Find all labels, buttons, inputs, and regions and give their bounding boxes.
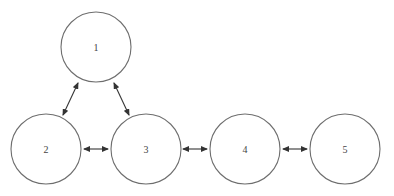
network-diagram: 1 2 3 4 5 [0, 0, 394, 196]
node-4: 4 [210, 114, 280, 184]
node-3-label: 3 [144, 144, 149, 155]
node-2-label: 2 [44, 144, 49, 155]
edge-1-3-bidirectional-arrow [114, 83, 129, 115]
node-3: 3 [111, 114, 181, 184]
node-5: 5 [310, 114, 380, 184]
node-4-label: 4 [243, 144, 248, 155]
node-2: 2 [11, 114, 81, 184]
node-1-label: 1 [94, 42, 99, 53]
edge-1-2-bidirectional-arrow [63, 83, 78, 115]
node-5-label: 5 [343, 144, 348, 155]
node-1: 1 [61, 12, 131, 82]
